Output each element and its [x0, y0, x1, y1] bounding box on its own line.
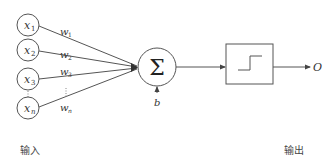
- input-label: x: [24, 102, 31, 115]
- input-node-1: x 1: [17, 14, 39, 36]
- weight-edges: [39, 26, 138, 107]
- edge-3: [39, 68, 137, 79]
- edge-n: [39, 69, 137, 107]
- input-subscript: n: [31, 108, 36, 116]
- output-label: O: [313, 61, 322, 74]
- weight-subscript: 1: [68, 31, 72, 38]
- input-label: x: [24, 19, 31, 32]
- input-label: x: [24, 73, 31, 86]
- weight-subscript: n: [68, 107, 72, 114]
- input-node-2: x 2: [17, 39, 39, 61]
- input-subscript: 3: [31, 79, 35, 87]
- step-function-icon: [238, 56, 262, 70]
- input-node-n: x n: [17, 97, 39, 119]
- bias-input: b: [154, 87, 160, 108]
- arrowhead-icon: [131, 63, 138, 72]
- input-node-3: x 3: [17, 68, 39, 90]
- bias-label: b: [154, 97, 160, 108]
- weight-subscript: 2: [68, 54, 72, 61]
- output-caption: 输出: [284, 144, 304, 156]
- input-subscript: 1: [31, 25, 35, 33]
- perceptron-diagram: x 1 x 2 x 3 x n w 1 w 2 w 3 w n: [0, 0, 335, 167]
- edge-1: [39, 26, 137, 66]
- input-label: x: [24, 44, 31, 57]
- summation-node: Σ: [138, 48, 176, 86]
- sigma-icon: Σ: [149, 55, 165, 80]
- input-caption: 输入: [20, 144, 40, 156]
- activation-function-box: [226, 44, 273, 84]
- edge-2: [39, 51, 137, 67]
- input-subscript: 2: [31, 50, 35, 58]
- weight-subscript: 3: [68, 71, 72, 78]
